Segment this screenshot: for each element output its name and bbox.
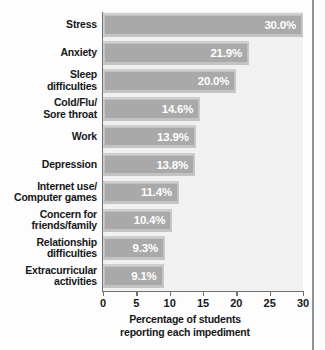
x-tick-label: 15	[188, 297, 218, 309]
x-tick-label: 10	[155, 297, 185, 309]
bar-row: Work13.9%	[0, 125, 312, 149]
bar-row: Relationshipdifficulties9.3%	[0, 236, 312, 260]
bar: 10.4%	[103, 209, 172, 233]
bar-value-label: 14.6%	[162, 103, 194, 115]
bar-row: Concern forfriends/family10.4%	[0, 209, 312, 233]
category-label: Relationshipdifficulties	[1, 237, 97, 260]
bar-value-label: 13.8%	[156, 159, 188, 171]
bar-row: Internet use/Computer games11.4%	[0, 181, 312, 205]
category-label: Concern forfriends/family	[1, 209, 97, 232]
x-tick-label: 25	[255, 297, 285, 309]
bar-value-label: 10.4%	[134, 214, 166, 226]
category-label: Depression	[1, 159, 97, 171]
category-label: Cold/Flu/Sore throat	[1, 97, 97, 120]
bar-row: Stress30.0%	[0, 13, 312, 37]
bar: 9.3%	[103, 236, 165, 260]
bar-row: Cold/Flu/Sore throat14.6%	[0, 97, 312, 121]
x-tick	[170, 291, 171, 296]
bar-value-label: 11.4%	[141, 186, 172, 198]
x-tick	[103, 291, 104, 296]
page-binding-edge	[312, 0, 314, 350]
bar: 11.4%	[103, 181, 179, 205]
x-tick	[236, 291, 237, 296]
bar-value-label: 30.0%	[264, 19, 296, 31]
category-label: Sleepdifficulties	[1, 69, 97, 92]
x-tick	[136, 291, 137, 296]
category-label: Work	[1, 131, 97, 143]
bar-rows: Stress30.0%Anxiety21.9%Sleepdifficulties…	[0, 12, 312, 291]
x-tick	[270, 291, 271, 296]
x-tick-label: 0	[88, 297, 118, 309]
bar: 14.6%	[103, 97, 200, 121]
bar-value-label: 9.1%	[131, 270, 156, 282]
x-axis-caption-line1: Percentage of students	[70, 313, 300, 326]
bar-value-label: 20.0%	[198, 75, 230, 87]
category-label: Internet use/Computer games	[1, 181, 97, 204]
bar-row: Depression13.8%	[0, 153, 312, 177]
x-axis-caption-line2: reporting each impediment	[70, 326, 300, 339]
bar: 21.9%	[103, 41, 249, 65]
x-tick-label: 5	[121, 297, 151, 309]
bar-value-label: 9.3%	[133, 242, 158, 254]
bar-row: Extracurricularactivities9.1%	[0, 264, 312, 288]
category-label: Extracurricularactivities	[1, 265, 97, 288]
category-label: Stress	[1, 19, 97, 31]
bar-value-label: 13.9%	[157, 131, 189, 143]
bar: 20.0%	[103, 69, 236, 93]
bar-row: Anxiety21.9%	[0, 41, 312, 65]
page-margin	[316, 0, 325, 350]
bar-row: Sleepdifficulties20.0%	[0, 69, 312, 93]
bar: 13.9%	[103, 125, 196, 149]
bar: 9.1%	[103, 264, 164, 288]
category-label: Anxiety	[1, 47, 97, 59]
bar: 13.8%	[103, 153, 195, 177]
x-tick	[303, 291, 304, 296]
x-tick-label: 20	[221, 297, 251, 309]
x-tick	[203, 291, 204, 296]
bar-chart-figure: Stress30.0%Anxiety21.9%Sleepdifficulties…	[0, 0, 325, 350]
bar-value-label: 21.9%	[210, 47, 242, 59]
x-axis-caption: Percentage of students reporting each im…	[70, 313, 300, 338]
bar: 30.0%	[103, 13, 303, 37]
